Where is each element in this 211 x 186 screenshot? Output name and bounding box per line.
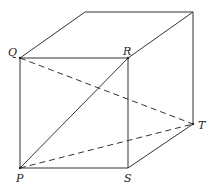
edge-R-top (128, 12, 193, 58)
edge-Q-top (20, 12, 85, 58)
label-S: S (124, 173, 132, 184)
dashed-QT (20, 58, 193, 124)
diagonal-PR (20, 58, 128, 168)
label-T: T (198, 120, 205, 131)
label-R: R (123, 46, 131, 57)
edge-ST (128, 124, 193, 168)
cube-diagram (0, 0, 211, 186)
label-P: P (16, 173, 23, 184)
label-Q: Q (8, 47, 17, 58)
dashed-PT (20, 124, 193, 168)
